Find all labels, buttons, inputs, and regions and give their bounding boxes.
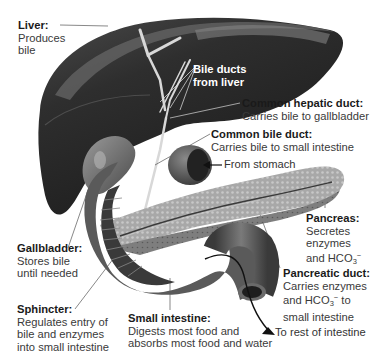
small-intestine-desc-line2: absorbs most food and water [128,337,272,350]
label-pancreas: Pancreas: Secretes enzymes and HCO3− [306,212,361,268]
pancreatic-duct-desc-line2: and HCO3− to [283,292,370,311]
gallbladder-desc-line1: Stores bile [17,255,82,268]
label-to-rest-of-intestine: To rest of intestine [275,326,366,338]
label-from-stomach: From stomach [224,158,296,170]
label-sphincter: Sphincter: Regulates entry of bile and e… [17,303,109,353]
bile-ducts-line1: Bile ducts [193,63,246,76]
common-hepatic-duct-desc: Carries bile to gallbladder [242,110,369,123]
pancreas-title: Pancreas: [306,212,361,225]
label-liver: Liver: Produces bile [18,19,65,57]
pancreas-superscript: − [357,251,361,260]
label-bile-ducts: Bile ducts from liver [193,63,246,88]
common-hepatic-duct-title: Common hepatic duct: [242,97,369,110]
pancreas-desc-line1: Secretes [306,225,361,238]
liver-desc-line1: Produces [18,32,65,45]
pancreatic-duct-hco3-text: and HCO [283,294,330,306]
sphincter-desc-line1: Regulates entry of [17,316,109,329]
label-small-intestine: Small intestine: Digests most food and a… [128,312,272,350]
digestive-organs-diagram: Liver: Produces bile Bile ducts from liv… [0,0,377,356]
label-common-hepatic-duct: Common hepatic duct: Carries bile to gal… [242,97,369,122]
pancreas-hco3-text: and HCO [306,252,353,264]
bile-ducts-line2: from liver [193,76,246,89]
label-gallbladder: Gallbladder: Stores bile until needed [17,242,82,280]
common-bile-duct-desc: Carries bile to small intestine [211,141,354,154]
small-intestine-desc-line1: Digests most food and [128,325,272,338]
pancreas-desc-line2: enzymes [306,237,361,250]
label-pancreatic-duct: Pancreatic duct: Carries enzymes and HCO… [283,267,370,323]
common-bile-duct-title: Common bile duct: [211,128,354,141]
liver-desc-line2: bile [18,44,65,57]
small-intestine-title: Small intestine: [128,312,272,325]
gallbladder-title: Gallbladder: [17,242,82,255]
sphincter-title: Sphincter: [17,303,109,316]
pancreas-desc-line3: and HCO3− [306,250,361,269]
sphincter-desc-line2: bile and enzymes [17,328,109,341]
pancreatic-duct-desc-line1: Carries enzymes [283,280,370,293]
pancreatic-duct-title: Pancreatic duct: [283,267,370,280]
pancreatic-duct-desc-line3: small intestine [283,311,370,324]
gallbladder-desc-line2: until needed [17,267,82,280]
label-common-bile-duct: Common bile duct: Carries bile to small … [211,128,354,153]
liver-title: Liver: [18,19,65,32]
sphincter-desc-line3: into small intestine [17,341,109,354]
pancreatic-duct-to-text: to [338,294,350,306]
